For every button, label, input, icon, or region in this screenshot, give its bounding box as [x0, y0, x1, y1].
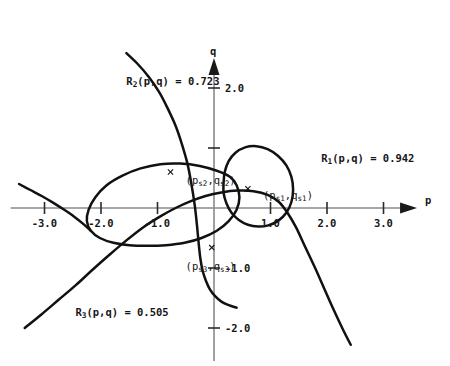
s3-sub2: s3: [220, 265, 229, 274]
s2-sub2: s2: [220, 179, 229, 188]
s3-close: ): [229, 260, 235, 272]
curve-label-r3-text: R: [75, 306, 81, 318]
s1-comma: ,q: [285, 189, 298, 201]
curve-label-r1: R1(p,q) = 0.942: [296, 142, 415, 174]
s1-close: ): [307, 189, 313, 201]
x-axis-arrowhead: [400, 203, 417, 214]
y-axis-label: q: [210, 46, 216, 57]
s3-comma: ,q: [207, 260, 220, 272]
x-tick-label-5: 3.0: [374, 218, 393, 229]
contour-plot-figure: p q -3.0-2.0-1.01.02.03.02.0-1.0-2.0 R1(…: [0, 0, 450, 366]
curve-label-r2-sub: 2: [133, 80, 138, 89]
curve-label-r1-sub: 1: [328, 157, 333, 166]
s2-sub1: s2: [198, 179, 207, 188]
point-label-s3: (ps3,qs3): [160, 250, 235, 282]
curve-label-r1-text: R: [321, 152, 327, 164]
point-label-s1: (ps1,qs1): [238, 180, 313, 212]
x-tick-label-2: -1.0: [145, 218, 170, 229]
curve-label-r3-sub: 3: [82, 311, 87, 320]
y-tick-label-0: 2.0: [225, 83, 244, 94]
curve-label-r2-rest: (p,q) = 0.723: [137, 75, 219, 87]
s2-comma: ,q: [207, 174, 220, 186]
s2-open: (p: [186, 174, 199, 186]
x-tick-label-4: 2.0: [317, 218, 336, 229]
s3-open: (p: [186, 260, 199, 272]
curve-label-r3: R3(p,q) = 0.505: [50, 296, 169, 328]
curve-label-r2: R2(p,q) = 0.723: [101, 65, 220, 97]
s1-sub1: s1: [276, 194, 285, 203]
y-tick-label-3: -2.0: [225, 323, 250, 334]
s3-sub1: s3: [198, 265, 207, 274]
x-tick-label-3: 1.0: [261, 218, 280, 229]
s2-close: ): [229, 174, 235, 186]
point-label-s2: (ps2,qs2): [160, 165, 235, 197]
curve-label-r1-rest: (p,q) = 0.942: [332, 152, 414, 164]
s1-sub2: s1: [297, 194, 306, 203]
x-tick-label-0: -3.0: [32, 218, 57, 229]
x-tick-label-1: -2.0: [88, 218, 113, 229]
s1-open: (p: [263, 189, 276, 201]
curve-label-r3-rest: (p,q) = 0.505: [86, 306, 168, 318]
curve-label-r2-text: R: [126, 75, 132, 87]
x-axis-label: p: [425, 195, 431, 206]
